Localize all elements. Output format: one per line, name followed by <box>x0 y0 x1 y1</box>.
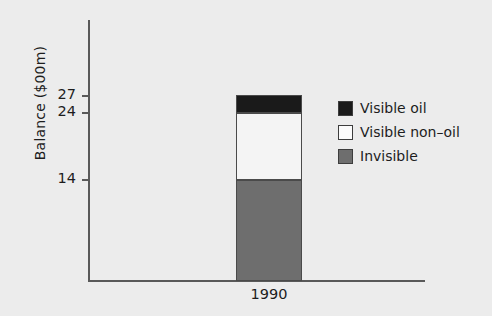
legend-item-label: Visible non–oil <box>360 124 460 140</box>
y-tick-mark <box>82 112 90 114</box>
legend-item-label: Visible oil <box>360 100 427 116</box>
y-tick-mark <box>82 95 90 97</box>
white-swatch-icon <box>338 125 353 140</box>
bar-group-1990 <box>236 0 302 316</box>
y-tick-label: 27 <box>58 86 76 102</box>
y-tick-label: 24 <box>58 103 76 119</box>
black-swatch-icon <box>338 101 353 116</box>
bar-segment-visible-non-oil[interactable] <box>236 113 302 180</box>
stacked-bar-chart: Balance ($00m) 27 24 14 1990 Visible oil… <box>0 0 492 316</box>
legend-item-visible-oil[interactable]: Visible oil <box>338 96 460 120</box>
y-tick-label: 14 <box>58 170 76 186</box>
y-tick-mark <box>82 179 90 181</box>
x-axis-category-label: 1990 <box>236 286 302 302</box>
bar-segment-invisible[interactable] <box>236 180 302 281</box>
y-axis-line <box>88 20 90 282</box>
y-axis-title: Balance ($00m) <box>32 18 48 188</box>
legend-item-label: Invisible <box>360 148 418 164</box>
legend-item-invisible[interactable]: Invisible <box>338 144 460 168</box>
legend-item-visible-non-oil[interactable]: Visible non–oil <box>338 120 460 144</box>
gray-swatch-icon <box>338 149 353 164</box>
legend: Visible oil Visible non–oil Invisible <box>338 96 460 168</box>
bar-segment-visible-oil[interactable] <box>236 95 302 113</box>
